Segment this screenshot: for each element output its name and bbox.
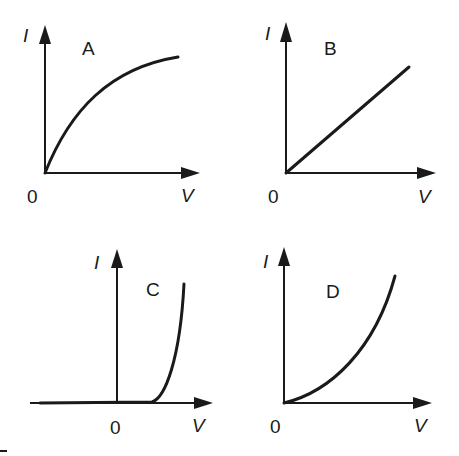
- x-axis-arrow-icon: [417, 167, 436, 179]
- y-axis-label: I: [94, 252, 100, 273]
- y-axis-label: I: [265, 23, 271, 44]
- x-axis-arrow-icon: [181, 167, 200, 179]
- graph-label: C: [146, 279, 160, 300]
- y-axis-label: I: [23, 25, 29, 46]
- x-axis-arrow-icon: [413, 397, 432, 409]
- graph-b: I B 0 V: [265, 22, 436, 207]
- graph-d: I D 0 V: [263, 247, 432, 437]
- origin-label: 0: [270, 416, 281, 437]
- graph-c: I C 0 V: [30, 249, 213, 438]
- graph-label: D: [326, 281, 340, 302]
- y-axis-label: I: [263, 251, 269, 272]
- y-axis-arrow-icon: [111, 249, 123, 268]
- origin-label: 0: [268, 186, 279, 207]
- graph-a: I A 0 V: [23, 25, 200, 207]
- x-axis-arrow-icon: [194, 397, 213, 409]
- x-axis-label: V: [414, 415, 429, 436]
- graph-label: B: [324, 38, 337, 59]
- x-axis-label: V: [192, 415, 207, 436]
- x-axis-label: V: [181, 185, 196, 206]
- iv-characteristics-diagram: I A 0 V I B 0 V I C 0 V I D 0 V: [0, 0, 459, 456]
- curve-c: [40, 284, 184, 403]
- x-axis-label: V: [418, 186, 433, 207]
- y-axis-arrow-icon: [278, 247, 290, 266]
- origin-label: 0: [27, 186, 38, 207]
- origin-label: 0: [110, 417, 121, 438]
- y-axis-arrow-icon: [39, 25, 51, 44]
- y-axis-arrow-icon: [280, 22, 292, 42]
- curve-a: [45, 57, 178, 173]
- graph-label: A: [82, 38, 95, 59]
- curve-b: [286, 67, 409, 173]
